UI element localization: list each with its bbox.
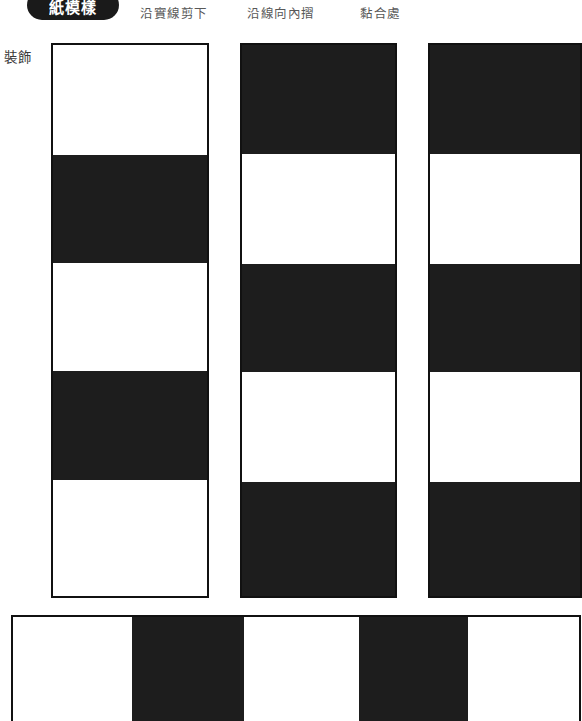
page-header: 紙模樣 沿實線剪下 沿線向內摺 黏合處 — [0, 0, 582, 34]
legend-item-glue-area: 黏合處 — [360, 3, 401, 22]
panel-2-band-1 — [242, 45, 395, 154]
panel-2-band-2 — [242, 154, 395, 264]
bottom-strip-stripe-4 — [359, 617, 468, 721]
panel-3-band-2 — [430, 154, 580, 264]
side-label-decoration: 裝飾 — [4, 46, 31, 66]
panel-1-band-2 — [53, 155, 207, 263]
panel-3-band-5 — [430, 482, 580, 596]
bottom-strip-stripe-5 — [468, 617, 581, 721]
panel-1-band-5 — [53, 480, 207, 596]
bottom-strip-panel — [11, 615, 581, 721]
panel-2-band-4 — [242, 372, 395, 482]
panel-3-band-3 — [430, 264, 580, 372]
panel-2-band-5 — [242, 482, 395, 596]
brand-logo: 紙模樣 — [27, 0, 119, 20]
panel-3-band-1 — [430, 45, 580, 154]
brand-logo-text: 紙模樣 — [49, 1, 97, 20]
panel-2-band-3 — [242, 264, 395, 372]
legend-item-cut-line: 沿實線剪下 — [140, 3, 208, 22]
panel-3 — [428, 43, 582, 598]
legend-item-fold-line: 沿線向內摺 — [247, 3, 315, 22]
panel-3-band-4 — [430, 372, 580, 482]
panel-1-band-4 — [53, 371, 207, 480]
panel-1-band-3 — [53, 263, 207, 371]
panel-1 — [51, 43, 209, 598]
bottom-strip-stripe-1 — [13, 617, 132, 721]
bottom-strip-stripe-3 — [244, 617, 359, 721]
panel-2 — [240, 43, 397, 598]
bottom-strip-stripe-2 — [132, 617, 244, 721]
panel-1-band-1 — [53, 45, 207, 155]
